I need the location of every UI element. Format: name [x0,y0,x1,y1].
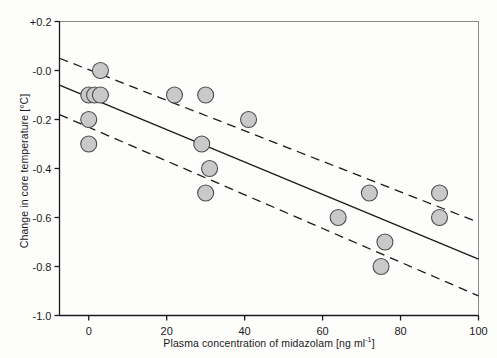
scatter-plot-figure: +0.2-0.0-0.2-0.4-0.6-0.8-1.0020406080100… [0,0,497,358]
data-point [432,185,448,201]
data-point [361,185,377,201]
confidence-band-lower-line [60,115,479,296]
y-tick-label-2: -0.2 [33,114,52,126]
data-point [166,87,182,103]
y-tick-label-0: +0.2 [30,16,52,28]
data-point [377,234,393,250]
plot-canvas: +0.2-0.0-0.2-0.4-0.6-0.8-1.0020406080100 [0,0,497,358]
confidence-band-upper-line [60,58,479,222]
x-tick-label-1: 20 [161,325,173,337]
data-point [241,112,257,128]
x-axis-title-main: Plasma concentration of midazolam [ng ml [163,337,365,349]
data-point [330,210,346,226]
data-point [92,63,108,79]
y-tick-label-4: -0.6 [33,212,52,224]
x-axis-title: Plasma concentration of midazolam [ng ml… [59,336,479,349]
y-tick-label-3: -0.4 [33,163,52,175]
x-tick-label-3: 60 [316,325,328,337]
x-tick-label-2: 40 [239,325,251,337]
data-point [198,185,214,201]
y-tick-label-1: -0.0 [33,65,52,77]
data-point [92,87,108,103]
data-point [373,259,389,275]
y-tick-label-5: -0.8 [33,261,52,273]
x-tick-label-5: 100 [469,325,487,337]
regression-line [60,85,479,259]
y-axis-title: Change in core temperature [°C] [18,51,30,291]
x-tick-label-0: 0 [86,325,92,337]
data-point [81,112,97,128]
data-point [198,87,214,103]
data-point [194,136,210,152]
x-axis-title-bracket: ] [372,337,375,349]
plot-frame [60,22,479,316]
x-tick-label-4: 80 [394,325,406,337]
data-point [81,136,97,152]
data-point [202,161,218,177]
data-point [432,210,448,226]
y-tick-label-6: -1.0 [33,310,52,322]
